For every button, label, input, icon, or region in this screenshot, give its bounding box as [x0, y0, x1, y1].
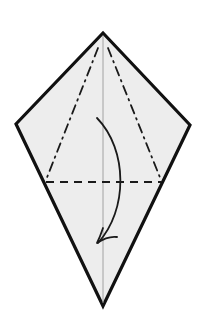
origami-diagram	[0, 0, 204, 331]
diagram-canvas	[0, 0, 204, 331]
